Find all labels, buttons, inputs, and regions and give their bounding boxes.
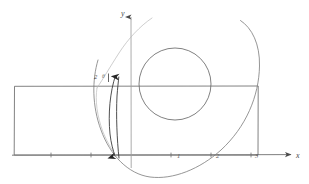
figure-root: y x 1 2 3 2 θ	[0, 0, 309, 184]
x-tick-label-2: 2	[216, 153, 219, 160]
x-axis-label: x	[296, 152, 300, 160]
x-tick-label-3: 3	[255, 153, 258, 160]
annotation-label-main: 2	[94, 74, 97, 81]
y-axis-label: y	[121, 10, 125, 18]
x-tick-label-1: 1	[177, 153, 180, 160]
x-axis	[12, 155, 291, 156]
light-arc-lower-left	[96, 88, 116, 156]
small-circle	[139, 48, 211, 120]
arrowed-curve-right	[117, 77, 119, 158]
annotation-label-sub: θ	[102, 74, 105, 80]
rectangle	[14, 86, 258, 155]
diagram-canvas	[0, 0, 309, 184]
light-arc-upper-left	[97, 18, 152, 88]
arrowed-curve-left	[109, 76, 115, 157]
